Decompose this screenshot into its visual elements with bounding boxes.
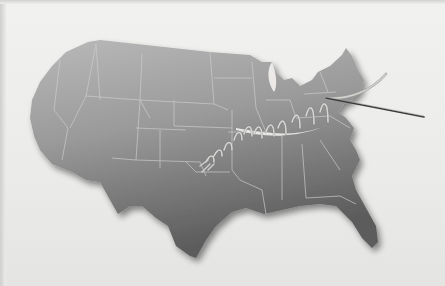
photo-page [0, 0, 445, 286]
us-map-illustration [0, 0, 445, 286]
